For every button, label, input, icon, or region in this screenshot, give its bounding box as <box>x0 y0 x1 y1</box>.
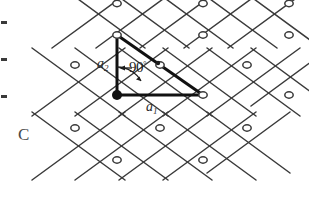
edge-tick-3 <box>1 95 7 98</box>
vector-label-a1: a1 <box>146 100 158 116</box>
edge-tick-2 <box>1 58 7 61</box>
lattice-node <box>156 125 164 131</box>
degree-symbol: ° <box>143 59 146 69</box>
lattice-node <box>243 125 251 131</box>
lattice-lines-up-right <box>32 0 309 180</box>
origin-node <box>112 90 122 100</box>
lattice-lines-down-right <box>32 0 309 180</box>
lattice-figure: a2 a1 90° C <box>0 0 309 215</box>
lattice-node <box>113 32 121 38</box>
edge-tick-1 <box>1 21 7 24</box>
lattice-node <box>113 157 121 163</box>
lattice-node <box>113 0 121 6</box>
vector-label-a2: a2 <box>97 57 109 73</box>
lattice-node <box>199 157 207 163</box>
lattice-node <box>243 62 251 68</box>
lattice-node <box>199 92 207 98</box>
lattice-node <box>199 0 207 6</box>
degree-symbol-dot <box>156 61 160 65</box>
lattice-node <box>285 32 293 38</box>
angle-label: 90° <box>129 60 146 75</box>
lattice-node <box>71 62 79 68</box>
panel-letter-label: C <box>18 126 29 143</box>
lattice-node <box>285 92 293 98</box>
lattice-net <box>32 0 309 180</box>
lattice-node <box>199 32 207 38</box>
lattice-node <box>71 125 79 131</box>
lattice-node <box>285 0 293 6</box>
